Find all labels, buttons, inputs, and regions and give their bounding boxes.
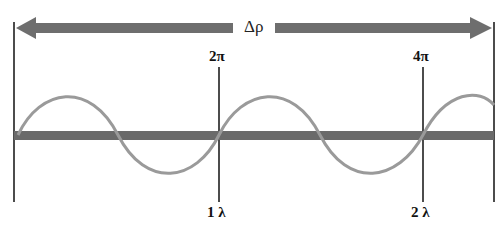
delta-rho-label: Δρ — [244, 17, 263, 37]
marker-2pi: 2π — [209, 48, 225, 65]
marker-2-lambda: 2 λ — [411, 204, 430, 221]
marker-4pi: 4π — [413, 48, 429, 65]
marker-1-lambda: 1 λ — [207, 204, 226, 221]
